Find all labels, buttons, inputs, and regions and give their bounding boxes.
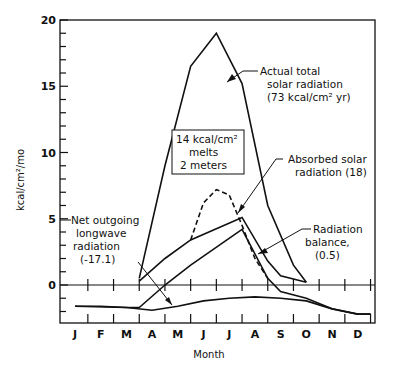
svg-text:14 kcal/cm²: 14 kcal/cm² xyxy=(176,133,238,145)
series-line xyxy=(139,217,306,282)
svg-text:Absorbed solar: Absorbed solar xyxy=(288,153,367,165)
svg-text:melts: melts xyxy=(189,146,218,158)
svg-text:20: 20 xyxy=(41,14,57,27)
svg-text:radiation (18): radiation (18) xyxy=(295,166,367,178)
svg-text:10: 10 xyxy=(41,147,57,160)
svg-text:Actual total: Actual total xyxy=(260,65,320,77)
svg-text:2 meters: 2 meters xyxy=(180,159,227,171)
svg-text:radiation: radiation xyxy=(73,240,120,252)
svg-text:balance,: balance, xyxy=(305,236,350,248)
svg-text:J: J xyxy=(226,328,231,341)
svg-text:M: M xyxy=(121,328,132,341)
svg-text:(73 kcal/cm² yr): (73 kcal/cm² yr) xyxy=(267,91,351,103)
svg-text:Net outgoing: Net outgoing xyxy=(71,214,139,226)
y-axis-ticks xyxy=(60,20,68,312)
svg-text:(0.5): (0.5) xyxy=(315,249,340,261)
x-axis-title: Month xyxy=(193,349,224,360)
annotation-net-longwave: Net outgoing longwave radiation (-17.1) xyxy=(60,214,172,305)
svg-text:A: A xyxy=(251,328,260,341)
svg-text:5: 5 xyxy=(48,213,56,226)
svg-text:J: J xyxy=(72,328,77,341)
annotation-radiation-balance: Radiation balance, (0.5) xyxy=(258,223,363,261)
svg-text:longwave: longwave xyxy=(76,227,126,239)
annotation-absorbed: Absorbed solar radiation (18) xyxy=(238,153,367,213)
x-axis-labels: JFMAMJJASOND xyxy=(72,328,362,341)
svg-text:(-17.1): (-17.1) xyxy=(80,253,115,265)
y-axis-labels: 05101520 xyxy=(41,14,57,292)
svg-text:O: O xyxy=(302,328,311,341)
svg-text:S: S xyxy=(277,328,285,341)
svg-text:Radiation: Radiation xyxy=(313,223,363,235)
svg-text:M: M xyxy=(172,328,183,341)
svg-text:J: J xyxy=(200,328,205,341)
svg-text:A: A xyxy=(148,328,157,341)
chart: 05101520 JFMAMJJASOND kcal/cm²/mo Month … xyxy=(0,0,395,377)
svg-text:F: F xyxy=(97,328,105,341)
svg-text:0: 0 xyxy=(48,279,56,292)
series-line xyxy=(75,297,371,314)
svg-text:D: D xyxy=(353,328,362,341)
svg-text:solar radiation: solar radiation xyxy=(267,78,343,90)
svg-text:N: N xyxy=(327,328,336,341)
y-axis-title: kcal/cm²/mo xyxy=(15,149,26,211)
series-line xyxy=(191,190,268,279)
svg-text:15: 15 xyxy=(41,80,56,93)
annotation-snowmelt-box: 14 kcal/cm² melts 2 meters xyxy=(172,130,244,174)
